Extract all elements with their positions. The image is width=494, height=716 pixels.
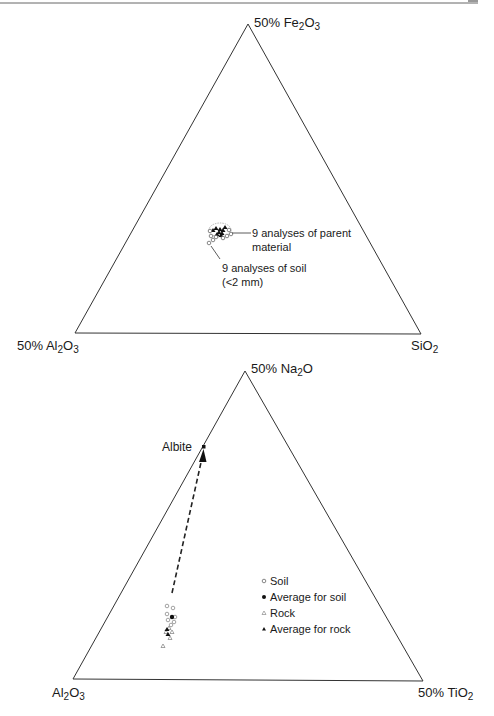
- ternary-fe2o3-al2o3-sio2: 50% Fe2O3 50% Al2O3 SiO2: [17, 15, 439, 355]
- page-number-mark: [468, 0, 478, 2]
- vertex-label-top: 50% Na2O: [251, 361, 313, 378]
- annotation-parent-line2: material: [252, 241, 291, 253]
- annotation-soil-line1: 9 analyses of soil: [222, 262, 306, 274]
- albite-label: Albite: [162, 440, 192, 454]
- triangle-outline: [73, 371, 423, 681]
- vertex-label-right: 50% TiO2: [418, 685, 474, 702]
- leader-line-soil: [211, 246, 220, 259]
- ternary-na2o-al2o3-tio2: 50% Na2O Al2O3 50% TiO2 Albite: [52, 361, 474, 702]
- soil-point: [225, 234, 229, 238]
- soil-point: [165, 604, 169, 608]
- rock-point: [161, 644, 165, 648]
- soil-point: [207, 241, 211, 245]
- legend-rock-average-label: Average for rock: [270, 623, 351, 635]
- legend: Soil Average for soil Rock Average for r…: [262, 575, 351, 635]
- figure: 50% Fe2O3 50% Al2O3 SiO2: [0, 0, 494, 716]
- soil-average: [170, 615, 174, 619]
- legend-rock-icon: [262, 611, 266, 615]
- vertex-label-left: 50% Al2O3: [17, 338, 79, 355]
- soil-point: [171, 606, 175, 610]
- annotation-parent-line1: 9 analyses of parent: [252, 227, 351, 239]
- albite-marker: [202, 445, 206, 449]
- soil-point: [172, 620, 176, 624]
- legend-soil-average-icon: [262, 595, 266, 599]
- rock-point: [168, 636, 172, 640]
- data-cluster: [207, 223, 233, 245]
- vertex-label-right: SiO2: [411, 338, 439, 355]
- vertex-label-left: Al2O3: [52, 685, 85, 702]
- soil-point: [208, 229, 212, 233]
- annotation-soil-line2: (<2 mm): [222, 276, 263, 288]
- rock-point: [170, 630, 174, 634]
- legend-soil-label: Soil: [270, 575, 288, 587]
- legend-rock-average-icon: [262, 627, 266, 631]
- soil-point: [214, 235, 218, 239]
- legend-soil-icon: [262, 579, 266, 583]
- soil-point: [166, 618, 170, 622]
- legend-soil-average-label: Average for soil: [270, 591, 346, 603]
- parent-point: [223, 225, 228, 229]
- data-cluster: [161, 604, 177, 647]
- trend-arrow-shaft: [172, 458, 202, 593]
- vertex-label-top: 50% Fe2O3: [254, 15, 321, 32]
- legend-rock-label: Rock: [270, 607, 296, 619]
- soil-point: [227, 228, 231, 232]
- soil-point: [211, 238, 215, 242]
- parent-point: [214, 226, 219, 230]
- soil-point: [165, 612, 169, 616]
- soil-point: [169, 623, 173, 627]
- soil-point: [209, 234, 213, 238]
- soil-point: [221, 236, 225, 240]
